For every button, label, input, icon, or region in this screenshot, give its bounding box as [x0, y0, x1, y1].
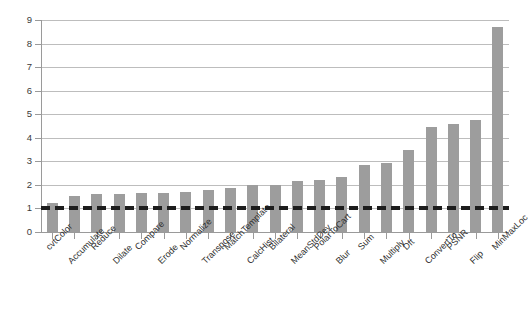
y-tick-mark	[35, 20, 41, 21]
bar	[136, 193, 147, 232]
gridline	[41, 91, 509, 92]
y-tick-label: 0	[10, 227, 32, 237]
y-tick-mark	[35, 91, 41, 92]
y-tick-label: 9	[10, 15, 32, 25]
bar	[359, 165, 370, 232]
gridline	[41, 114, 509, 115]
y-tick-label: 2	[10, 180, 32, 190]
bar	[403, 150, 414, 232]
x-tick-mark	[119, 233, 120, 239]
x-tick-mark	[431, 233, 432, 239]
x-tick-mark	[74, 233, 75, 239]
y-axis-line	[41, 20, 42, 233]
x-tick-label: Erode	[156, 243, 179, 266]
x-tick-mark	[253, 233, 254, 239]
y-tick-label: 8	[10, 39, 32, 49]
y-tick-label: 5	[10, 109, 32, 119]
x-tick-label: Dilate	[112, 243, 135, 266]
x-tick-label: Dft	[401, 237, 416, 252]
x-tick-mark	[386, 233, 387, 239]
y-tick-label: 4	[10, 133, 32, 143]
bar	[470, 120, 481, 232]
plot-area	[41, 20, 509, 232]
bar	[492, 27, 503, 232]
gridline	[41, 138, 509, 139]
gridline	[41, 44, 509, 45]
gridline	[41, 161, 509, 162]
y-tick-mark	[35, 185, 41, 186]
bar	[180, 192, 191, 233]
y-tick-label: 1	[10, 203, 32, 213]
y-tick-label: 3	[10, 156, 32, 166]
x-tick-mark	[208, 233, 209, 239]
x-tick-mark	[297, 233, 298, 239]
x-tick-mark	[342, 233, 343, 239]
y-tick-mark	[35, 44, 41, 45]
gridline	[41, 20, 509, 21]
gridline	[41, 67, 509, 68]
x-tick-label: Flip	[468, 249, 485, 266]
y-tick-mark	[35, 138, 41, 139]
bar	[426, 127, 437, 232]
y-tick-mark	[35, 67, 41, 68]
x-tick-label: Blur	[334, 248, 352, 266]
y-tick-mark	[35, 232, 41, 233]
x-tick-mark	[476, 233, 477, 239]
y-tick-label: 6	[10, 86, 32, 96]
bar	[381, 163, 392, 232]
x-tick-label: Sum	[357, 233, 376, 252]
y-tick-label: 7	[10, 62, 32, 72]
x-tick-mark	[164, 233, 165, 239]
threshold-line	[41, 206, 509, 210]
y-tick-mark	[35, 114, 41, 115]
bar	[448, 124, 459, 232]
y-tick-mark	[35, 161, 41, 162]
